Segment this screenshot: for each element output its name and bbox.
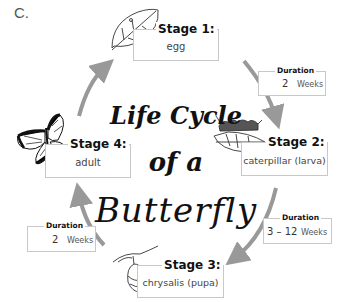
stage-4-heading: Stage 4: xyxy=(68,137,129,151)
title-line-3: Butterfly xyxy=(88,190,264,230)
stage-2-name: caterpillar (larva) xyxy=(242,155,327,166)
duration-3-box: Duration 2 Weeks xyxy=(27,226,96,252)
duration-2-heading: Duration xyxy=(280,213,321,222)
stage-3-heading: Stage 3: xyxy=(162,258,223,272)
duration-1-value: 2 xyxy=(282,78,288,89)
duration-3-value: 2 xyxy=(52,234,58,245)
stage-2-heading: Stage 2: xyxy=(266,135,327,149)
duration-3-heading: Duration xyxy=(44,221,85,230)
duration-2-box: Duration 3 – 12 Weeks xyxy=(263,218,332,244)
stage-1-heading: Stage 1: xyxy=(156,22,217,36)
duration-1-heading: Duration xyxy=(275,66,316,75)
duration-1-unit: Weeks xyxy=(297,80,323,89)
stage-3-name: chrysalis (pupa) xyxy=(138,277,223,288)
duration-2-value: 3 – 12 xyxy=(267,226,297,237)
duration-3-unit: Weeks xyxy=(67,236,93,245)
stage-2-box: Stage 2: caterpillar (larva) xyxy=(241,142,328,176)
stage-1-box: Stage 1: egg xyxy=(133,29,219,61)
title-line-2: of a xyxy=(136,147,216,177)
title-line-1: Life Cycle xyxy=(96,101,256,130)
stage-4-name: adult xyxy=(46,157,130,168)
duration-1-box: Duration 2 Weeks xyxy=(258,71,326,96)
stage-1-name: egg xyxy=(134,41,218,52)
stage-4-box: Stage 4: adult xyxy=(45,144,131,178)
duration-2-unit: Weeks xyxy=(301,228,327,237)
stage-3-box: Stage 3: chrysalis (pupa) xyxy=(137,265,224,298)
